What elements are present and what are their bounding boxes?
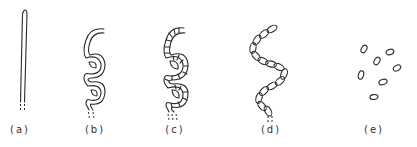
panel-d-continuation xyxy=(268,116,272,124)
label-d: (d) xyxy=(261,124,281,135)
panel-c-segmented-coil xyxy=(164,28,188,120)
label-b: (b) xyxy=(85,124,105,135)
panel-d-oval-chain xyxy=(249,24,289,118)
label-c: (c) xyxy=(165,124,184,135)
panel-b-coil xyxy=(84,29,105,119)
panel-a-rod xyxy=(21,10,28,112)
label-a: (a) xyxy=(10,124,30,135)
panel-e-scattered-ovals xyxy=(357,44,401,100)
label-e: (e) xyxy=(364,124,384,135)
figure-canvas xyxy=(0,0,417,147)
